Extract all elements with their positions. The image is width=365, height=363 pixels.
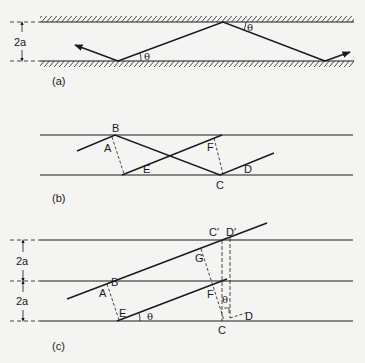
point-f-label: F (207, 288, 214, 300)
wavefront-ae (107, 284, 119, 320)
panel-b: B A E F C D (b) (40, 122, 353, 204)
bottom-wall-hatch (40, 61, 354, 67)
point-f-label: F (207, 141, 214, 153)
point-b-label: B (112, 122, 119, 134)
dimension-label: 2a (16, 255, 29, 267)
point-e-label: E (119, 307, 126, 319)
dimension-label: 2a (14, 36, 27, 48)
dimension-label: 2a (16, 295, 29, 307)
panel-a: 2a θ θ (a) (10, 16, 354, 87)
segment-to-d (230, 313, 246, 318)
point-a-label: A (104, 142, 112, 154)
panel-caption: (b) (52, 192, 65, 204)
point-dprime-label: D′ (226, 226, 236, 238)
point-g-label: G (195, 252, 204, 264)
lower-ray (117, 279, 227, 321)
point-d-label: D (245, 310, 253, 322)
point-c-label: C (216, 179, 224, 191)
outgoing-ray-arrow (325, 52, 350, 61)
wavefront-a (112, 137, 124, 174)
point-cprime-label: C′ (209, 226, 219, 238)
incoming-ray-arrow (75, 45, 118, 61)
angle-theta-label: θ (147, 311, 153, 322)
top-wall-hatch (40, 16, 354, 22)
panel-c: 2a 2a θ θ B A E G F C′ D′ C D (c) (10, 223, 353, 352)
point-a-label: A (99, 287, 107, 299)
panel-caption: (c) (52, 340, 65, 352)
point-d-label: D (244, 163, 252, 175)
angle-theta-label: θ (144, 51, 150, 62)
wavefront-gc (201, 249, 224, 320)
wavefront-f (214, 138, 223, 174)
point-c-label: C (218, 324, 226, 336)
panel-caption: (a) (52, 75, 65, 87)
point-b-label: B (111, 276, 118, 288)
angle-theta-label: θ (247, 22, 253, 33)
angle-theta-label: θ (222, 294, 228, 305)
upper-ray (67, 223, 267, 299)
waveguide-ray-diagram: 2a θ θ (a) B A E F C D (b) (0, 0, 365, 363)
point-e-label: E (143, 163, 150, 175)
